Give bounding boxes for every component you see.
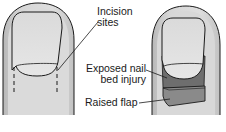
label-line: sites xyxy=(97,17,133,28)
left-fingertip xyxy=(3,3,98,115)
label-line: bed injury xyxy=(80,74,146,85)
right-fingertip xyxy=(139,6,220,115)
nail-plate xyxy=(162,18,205,79)
exposed-nail-bed-injury-label: Exposed nail bed injury xyxy=(80,63,146,85)
nail-bed-repair-diagram: Incision sites Exposed nail bed injury R… xyxy=(0,0,226,132)
nail-plate xyxy=(12,12,62,76)
label-line: Raised flap xyxy=(85,97,138,108)
raised-flap-label: Raised flap xyxy=(85,97,138,108)
incision-sites-label: Incision sites xyxy=(97,6,133,28)
